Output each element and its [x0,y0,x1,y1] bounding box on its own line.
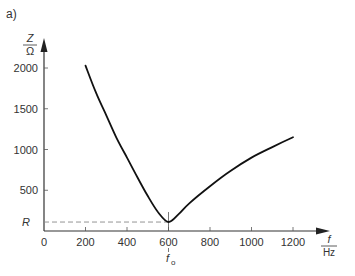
x-tick-label: 600 [159,236,177,248]
y-tick-label: 2000 [14,62,38,74]
x-tick-label: 800 [201,236,219,248]
svg-text:f: f [166,252,170,264]
svg-text:f: f [327,233,331,245]
svg-text:Hz: Hz [323,247,335,258]
y-ticks: 500100015002000 [14,62,48,196]
y-tick-label: 1500 [14,103,38,115]
y-axis-arrow-icon [41,38,48,52]
x-tick-label: 400 [118,236,136,248]
x-tick-label: 1000 [239,236,263,248]
y-tick-label: 1000 [14,144,38,156]
x-tick-label: 200 [76,236,94,248]
x-ticks: 020040060080010001200 [41,227,305,248]
r-label: R [22,216,30,228]
y-axis-label: Z Ω [23,32,37,57]
impedance-curve [86,66,294,222]
panel-label: a) [6,7,17,21]
impedance-chart: a) Z Ω f Hz 500100015002000 020040060080… [0,0,355,276]
x-tick-label: 0 [41,236,47,248]
svg-text:o: o [171,258,176,267]
y-tick-label: 500 [20,184,38,196]
axes [41,38,331,235]
svg-text:Z: Z [26,32,35,44]
svg-text:Ω: Ω [26,45,34,57]
x-axis-label: f Hz [321,233,337,258]
x-tick-label: 1200 [281,236,305,248]
